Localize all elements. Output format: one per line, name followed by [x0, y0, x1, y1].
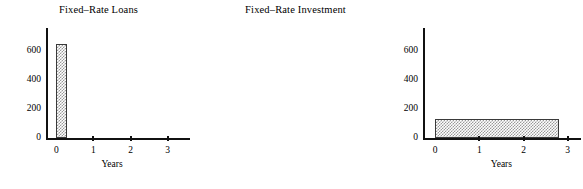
y-tick-label: 0: [384, 133, 418, 143]
x-tick-mark: [523, 136, 525, 141]
chart-title: Fixed–Rate Loans: [0, 4, 197, 15]
x-tick-label: 1: [78, 146, 108, 156]
x-tick-mark: [92, 136, 94, 141]
x-tick-label: 0: [41, 146, 71, 156]
chart-panel-fixed-rate-loans: Fixed–Rate Loans 02004006000123Years: [0, 0, 197, 189]
y-tick-label: 0: [7, 133, 41, 143]
x-tick-mark: [167, 136, 169, 141]
bar-loan: [56, 44, 67, 138]
chart-panel-fixed-rate-investment: Fixed–Rate Investment 02004006000123Year…: [197, 0, 394, 189]
y-tick-label: 200: [384, 104, 418, 114]
y-tick-label: 600: [384, 46, 418, 56]
x-tick-mark: [130, 136, 132, 141]
x-tick-label: 0: [420, 146, 450, 156]
x-tick-label: 2: [509, 146, 539, 156]
x-axis-line: [423, 138, 581, 140]
y-tick-label: 400: [384, 75, 418, 85]
x-tick-label: 3: [553, 146, 583, 156]
y-tick-label: 400: [7, 75, 41, 85]
y-tick-label: 200: [7, 104, 41, 114]
x-axis-label: Years: [461, 160, 541, 170]
x-tick-mark: [567, 136, 569, 141]
chart-title: Fixed–Rate Investment: [197, 4, 394, 15]
x-axis-label: Years: [72, 160, 152, 170]
y-tick-label: 600: [7, 46, 41, 56]
bar-investment: [435, 119, 559, 138]
x-tick-label: 2: [116, 146, 146, 156]
y-axis-line: [423, 28, 425, 140]
x-tick-label: 3: [153, 146, 183, 156]
x-tick-mark: [478, 136, 480, 141]
x-tick-label: 1: [464, 146, 494, 156]
y-axis-line: [46, 28, 48, 140]
